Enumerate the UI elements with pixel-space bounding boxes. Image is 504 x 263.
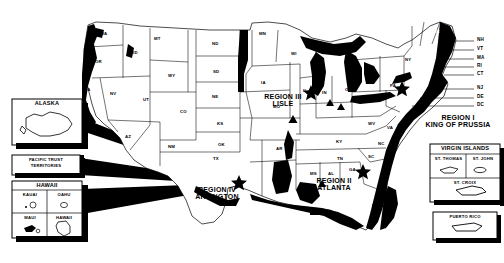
inset-hawaii-cell-hawaii: HAWAII (48, 216, 80, 220)
map-figure: WA OR CA ID NV UT AZ MT WY CO NM ND SD N… (0, 0, 504, 263)
region-1-name: REGION I (418, 114, 498, 121)
inset-pacific-title-line1: PACIFIC TRUST (12, 158, 80, 162)
region-2-name: REGION II (303, 177, 365, 184)
region-1-city: KING OF PRUSSIA (418, 121, 498, 128)
state-label-wi: WI (291, 52, 297, 57)
state-label-fl: FL (372, 204, 378, 209)
leader-label-dc: DC (477, 103, 484, 108)
state-label-la: LA (280, 175, 286, 180)
leader-label-de: DE (477, 95, 484, 100)
state-label-ia: IA (261, 81, 266, 86)
region-4-name: REGION IV (184, 186, 250, 193)
state-label-ut: UT (143, 98, 149, 103)
inset-hawaii-title: HAWAII (12, 183, 82, 189)
region-2-city: ATLANTA (303, 184, 365, 191)
state-label-nd: ND (212, 42, 219, 47)
leader-label-nj: NJ (477, 86, 483, 91)
state-label-al: AL (328, 172, 334, 177)
state-label-va: VA (387, 126, 393, 131)
state-label-pa: PA (390, 84, 396, 89)
state-label-ne: NE (212, 95, 218, 100)
state-label-nc: NC (378, 142, 385, 147)
state-label-az: AZ (125, 135, 131, 140)
leader-label-ct: CT (477, 72, 484, 77)
state-label-id: ID (133, 51, 138, 56)
state-label-in: IN (322, 91, 327, 96)
state-label-ar: AR (276, 147, 283, 152)
inset-vi-cell-st-john: ST. JOHN (466, 157, 500, 161)
state-label-co: CO (180, 110, 187, 115)
state-label-ga: GA (349, 168, 356, 173)
region-4-callout: REGION IV ARLINGTON (184, 186, 250, 201)
state-label-nm: NM (168, 145, 175, 150)
state-label-or: OR (95, 60, 102, 65)
leader-label-ri: RI (477, 64, 482, 69)
state-label-sd: SD (213, 70, 219, 75)
state-label-me: ME (433, 30, 440, 35)
inset-hawaii-cell-maui: MAUI (14, 216, 46, 220)
state-label-nv: NV (110, 92, 116, 97)
state-label-oh: OH (345, 88, 352, 93)
inset-alaska-title: ALASKA (12, 101, 82, 107)
inset-pacific-title-line2: TERRITORIES (12, 164, 80, 168)
inset-hawaii-cell-oahu: OAHU (48, 193, 80, 197)
us-map-graphic (0, 0, 504, 263)
region-3-callout: REGION III LISLE (252, 93, 314, 108)
region-3-name: REGION III (252, 93, 314, 100)
inset-puerto-rico-title: PUERTO RICO (433, 215, 497, 219)
region-2-callout: REGION II ATLANTA (303, 177, 365, 192)
leader-label-nh: NH (477, 38, 484, 43)
region-3-city: LISLE (252, 100, 314, 107)
inset-virgin-islands-title: VIRGIN ISLANDS (430, 146, 500, 152)
state-label-mt: MT (154, 37, 161, 42)
state-label-ca: CA (84, 88, 91, 93)
state-label-tx: TX (213, 157, 219, 162)
state-label-ok: OK (218, 143, 225, 148)
inset-vi-cell-st-thomas: ST. THOMAS (431, 157, 466, 161)
state-label-ky: KY (336, 140, 342, 145)
state-label-wy: WY (168, 74, 175, 79)
state-label-sc: SC (368, 155, 374, 160)
inset-vi-cell-st-croix: ST. CROIX (430, 181, 500, 185)
state-label-tn: TN (337, 157, 343, 162)
state-label-mn: MN (259, 32, 266, 37)
region-4-city: ARLINGTON (184, 193, 250, 200)
state-label-ms: MS (310, 172, 317, 177)
leader-label-ma: MA (477, 56, 485, 61)
state-label-md: MD (397, 100, 404, 105)
inset-hawaii-cell-kauai: KAUAI (14, 193, 46, 197)
state-label-wa: WA (100, 32, 107, 37)
state-label-ny: NY (405, 58, 411, 63)
state-label-ks: KS (217, 122, 223, 127)
state-label-mi: MI (331, 61, 336, 66)
leader-label-vt: VT (477, 47, 483, 52)
state-label-wv: WV (368, 122, 375, 127)
region-1-callout: REGION I KING OF PRUSSIA (418, 114, 498, 129)
